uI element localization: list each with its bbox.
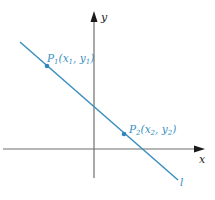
y-axis-arrow-icon bbox=[91, 11, 98, 22]
point-p1-label: P1(x1, y1) bbox=[46, 52, 94, 66]
x-axis-label: x bbox=[199, 153, 206, 166]
y-axis-label: y bbox=[100, 11, 108, 24]
point-p2-label: P2(x2, y2) bbox=[128, 123, 176, 137]
point-p2 bbox=[122, 132, 127, 137]
line-label: l bbox=[180, 176, 183, 188]
point-p1 bbox=[45, 64, 50, 69]
x-axis-arrow-icon bbox=[194, 146, 205, 153]
line-l bbox=[20, 42, 178, 180]
coordinate-diagram: x y l P1(x1, y1) P2(x2, y2) bbox=[0, 0, 215, 200]
